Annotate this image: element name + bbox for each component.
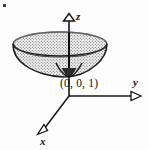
coordinate-figure-svg <box>0 0 149 150</box>
y-axis-line <box>69 92 141 101</box>
figure-canvas: z y x (0, 0, 1) <box>0 0 149 150</box>
y-axis-label: y <box>133 77 138 88</box>
z-axis-arrowhead <box>64 14 75 22</box>
vertex-point-label: (0, 0, 1) <box>60 78 98 90</box>
x-axis-line <box>38 96 70 135</box>
x-axis-label: x <box>40 136 46 147</box>
corner-speck-mark <box>3 4 6 7</box>
z-axis-label: z <box>76 11 80 22</box>
